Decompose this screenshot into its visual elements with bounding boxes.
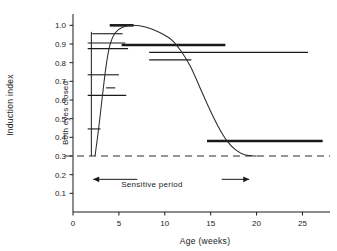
induction-index-chart: 0.10.20.30.40.50.60.70.80.91.0 051015202…: [0, 0, 337, 251]
y-tick-label: 0.3: [55, 152, 67, 161]
x-axis-label: Age (weeks): [180, 236, 231, 246]
x-tick-label: 15: [206, 219, 215, 228]
figure-container: 0.10.20.30.40.50.60.70.80.91.0 051015202…: [0, 0, 337, 251]
y-tick-label: 0.9: [55, 40, 67, 49]
y-tick-label: 0.1: [55, 189, 67, 198]
both-eyes-closed-label: Both eyes closed: [61, 81, 70, 145]
sensitive-period-label: Sensitive period: [121, 180, 183, 189]
y-tick-label: 0.8: [55, 59, 67, 68]
x-tick-label: 5: [117, 219, 122, 228]
x-tick-label: 20: [252, 219, 261, 228]
x-tick-label: 0: [71, 219, 76, 228]
x-tick-label: 25: [298, 219, 307, 228]
y-tick-label: 0.2: [55, 171, 67, 180]
x-tick-label: 10: [160, 219, 169, 228]
y-tick-label: 1.0: [55, 21, 67, 30]
y-axis-label: Induction index: [5, 74, 15, 136]
